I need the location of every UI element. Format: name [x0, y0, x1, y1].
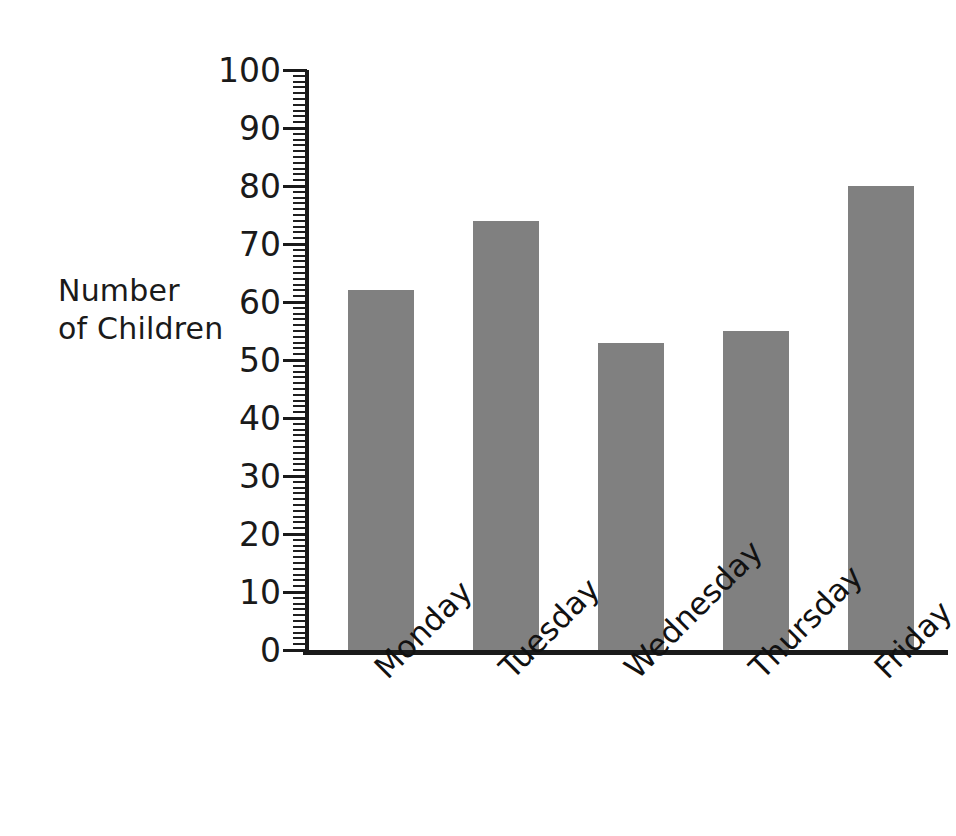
y-axis-minor-tick — [293, 139, 306, 141]
y-axis-minor-tick — [293, 434, 306, 436]
plot-area: 0102030405060708090100 MondayTuesdayWedn… — [305, 70, 950, 650]
y-axis-minor-tick — [293, 115, 306, 117]
y-axis-tick-label: 100 — [218, 54, 281, 87]
y-axis-minor-tick — [293, 452, 306, 454]
y-axis-minor-tick — [293, 539, 306, 541]
y-axis-tick-label: 70 — [239, 228, 281, 261]
y-axis-minor-tick — [293, 411, 306, 413]
y-axis-minor-tick — [293, 162, 306, 164]
y-axis-minor-tick — [293, 92, 306, 94]
y-axis-minor-tick — [293, 614, 306, 616]
y-axis-minor-tick — [293, 255, 306, 257]
y-axis-minor-tick — [293, 168, 306, 170]
y-axis-major-tick — [283, 475, 307, 478]
y-axis-minor-tick — [293, 220, 306, 222]
y-axis-minor-tick — [293, 574, 306, 576]
y-axis-minor-tick — [293, 603, 306, 605]
y-axis-minor-tick — [293, 214, 306, 216]
y-axis-minor-tick — [293, 504, 306, 506]
y-axis-minor-tick — [293, 121, 306, 123]
y-axis-minor-tick — [293, 156, 306, 158]
y-axis-minor-tick — [293, 498, 306, 500]
y-axis-minor-tick — [293, 510, 306, 512]
y-axis-minor-tick — [293, 626, 306, 628]
y-axis-minor-tick — [293, 133, 306, 135]
y-axis-minor-tick — [293, 202, 306, 204]
y-axis-minor-tick — [293, 620, 306, 622]
y-axis-minor-tick — [293, 440, 306, 442]
y-axis-title-line-1: Number — [58, 273, 180, 308]
y-axis-tick-label: 80 — [239, 170, 281, 203]
y-axis-minor-tick — [293, 562, 306, 564]
y-axis-minor-tick — [293, 353, 306, 355]
y-axis-minor-tick — [293, 289, 306, 291]
y-axis-tick-label: 20 — [239, 518, 281, 551]
y-axis-major-tick — [283, 127, 307, 130]
y-axis-minor-tick — [293, 423, 306, 425]
y-axis-minor-tick — [293, 75, 306, 77]
y-axis-minor-tick — [293, 376, 306, 378]
y-axis-minor-tick — [293, 231, 306, 233]
y-axis-major-tick — [283, 417, 307, 420]
y-axis-minor-tick — [293, 278, 306, 280]
y-axis-minor-tick — [293, 394, 306, 396]
y-axis-minor-tick — [293, 643, 306, 645]
y-axis-minor-tick — [293, 521, 306, 523]
y-axis-minor-tick — [293, 284, 306, 286]
y-axis-minor-tick — [293, 237, 306, 239]
y-axis-minor-tick — [293, 81, 306, 83]
y-axis-minor-tick — [293, 272, 306, 274]
y-axis-title-line-2: of Children — [58, 311, 223, 346]
y-axis-minor-tick — [293, 266, 306, 268]
y-axis-tick-label: 40 — [239, 402, 281, 435]
y-axis-major-tick — [283, 359, 307, 362]
bar — [348, 290, 414, 650]
y-axis-minor-tick — [293, 226, 306, 228]
y-axis-minor-tick — [293, 150, 306, 152]
y-axis-major-tick — [283, 649, 307, 652]
y-axis-minor-tick — [293, 371, 306, 373]
y-axis-minor-tick — [293, 144, 306, 146]
y-axis-minor-tick — [293, 568, 306, 570]
y-axis-minor-tick — [293, 324, 306, 326]
y-axis-minor-tick — [293, 556, 306, 558]
y-axis-minor-tick — [293, 179, 306, 181]
y-axis-minor-tick — [293, 446, 306, 448]
y-axis-minor-tick — [293, 429, 306, 431]
y-axis-major-tick — [283, 301, 307, 304]
y-axis-minor-tick — [293, 585, 306, 587]
y-axis-minor-tick — [293, 191, 306, 193]
y-axis-tick-label: 60 — [239, 286, 281, 319]
y-axis-minor-tick — [293, 260, 306, 262]
y-axis-minor-tick — [293, 608, 306, 610]
y-axis-minor-tick — [293, 318, 306, 320]
y-axis-minor-tick — [293, 104, 306, 106]
y-axis-major-tick — [283, 69, 307, 72]
y-axis-minor-tick — [293, 330, 306, 332]
y-axis-minor-tick — [293, 98, 306, 100]
y-axis-minor-tick — [293, 313, 306, 315]
y-axis-minor-tick — [293, 347, 306, 349]
y-axis-minor-tick — [293, 463, 306, 465]
y-axis-minor-tick — [293, 469, 306, 471]
y-axis-minor-tick — [293, 382, 306, 384]
y-axis-minor-tick — [293, 208, 306, 210]
y-axis-tick-label: 50 — [239, 344, 281, 377]
y-axis-tick-label: 10 — [239, 576, 281, 609]
y-axis-minor-tick — [293, 110, 306, 112]
y-axis-minor-tick — [293, 295, 306, 297]
bar — [723, 331, 789, 650]
y-axis-tick-label: 30 — [239, 460, 281, 493]
y-axis-minor-tick — [293, 516, 306, 518]
y-axis-minor-tick — [293, 336, 306, 338]
y-axis-minor-tick — [293, 632, 306, 634]
y-axis-major-tick — [283, 185, 307, 188]
y-axis-tick-label: 0 — [260, 634, 281, 667]
bar — [598, 343, 664, 650]
y-axis-minor-tick — [293, 400, 306, 402]
y-axis-major-tick — [283, 533, 307, 536]
y-axis-minor-tick — [293, 527, 306, 529]
y-axis-minor-tick — [293, 597, 306, 599]
y-axis-minor-tick — [293, 579, 306, 581]
bar-chart: Numberof Children 0102030405060708090100… — [0, 0, 956, 836]
